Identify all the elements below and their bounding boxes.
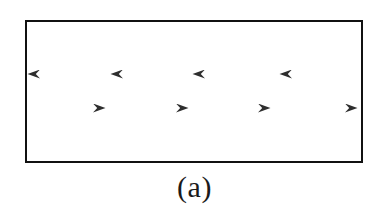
domain-box [25,20,363,163]
figure-container: (a) [0,0,389,215]
figure-caption: (a) [0,170,389,204]
